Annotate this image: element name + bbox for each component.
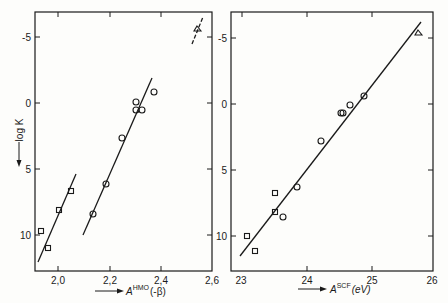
right-x-ticks: [242, 12, 372, 271]
left-x-ticks: [58, 12, 161, 271]
left-xtick-label: 2,4: [154, 275, 168, 286]
right-circle-markers: [280, 93, 367, 220]
left-xtick-label: 2,6: [205, 275, 219, 286]
left-x-axis-title: AHMO(-β): [125, 284, 166, 297]
left-ytick-label: 10: [20, 230, 32, 241]
right-ytick-label: 10: [216, 231, 228, 242]
right-plot-frame: [231, 12, 433, 271]
left-y-arrow-icon: [17, 142, 22, 167]
right-ytick-label: -5: [218, 33, 227, 44]
right-xtick-label: 24: [301, 275, 313, 286]
left-ytick-label: 5: [25, 164, 31, 175]
right-panel: -5 0 5 10 23 24 25 26 ASCF(eV): [216, 12, 438, 295]
left-x-arrow-icon: [95, 289, 124, 294]
right-ytick-label: 0: [221, 99, 227, 110]
fit-line-squares: [38, 174, 76, 262]
chart-figure: -5 0 5 10 2,0 2,2 2,4 2,6 log K AHMO(-β): [0, 0, 448, 303]
left-panel: -5 0 5 10 2,0 2,2 2,4 2,6 log K AHMO(-β): [14, 12, 219, 297]
right-x-arrow-icon: [298, 287, 327, 292]
left-ytick-label: 0: [25, 98, 31, 109]
left-xtick-label: 2,2: [103, 275, 117, 286]
right-x-axis-title: ASCF(eV): [329, 282, 371, 295]
right-ytick-label: 5: [221, 165, 227, 176]
left-ytick-label: -5: [22, 32, 31, 43]
right-xtick-label: 23: [235, 275, 247, 286]
right-triangle-marker: [415, 30, 422, 35]
fit-line-all: [240, 22, 421, 256]
right-xtick-label: 26: [426, 275, 438, 286]
left-xtick-label: 2,0: [51, 275, 65, 286]
left-y-axis-title: log K: [14, 118, 25, 141]
